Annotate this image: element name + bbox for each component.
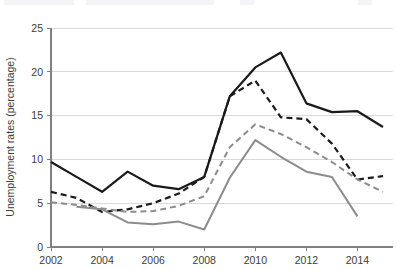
y-tick-label: 20	[31, 66, 43, 78]
y-tick-label: 25	[31, 22, 43, 34]
x-axis-tick-labels: 2002200420062008201020122014	[39, 254, 369, 266]
x-tick-label: 2002	[39, 254, 63, 266]
x-tick-label: 2010	[244, 254, 268, 266]
x-tick-label: 2008	[193, 254, 217, 266]
y-tick-label: 0	[37, 241, 43, 253]
x-tick-label: 2012	[295, 254, 319, 266]
gridlines-group	[51, 28, 393, 203]
y-tick-label: 5	[37, 197, 43, 209]
y-tick-label: 10	[31, 153, 43, 165]
chart-canvas: 0510152025 2002200420062008201020122014 …	[0, 0, 397, 269]
x-tick-label: 2014	[346, 254, 370, 266]
y-tick-label: 15	[31, 109, 43, 121]
tick-marks-group	[47, 28, 357, 251]
unemployment-rates-line-chart: 0510152025 2002200420062008201020122014 …	[0, 0, 397, 269]
series-gray-solid	[77, 140, 358, 229]
x-tick-label: 2006	[141, 254, 165, 266]
y-axis-title: Unemployment rates (percentage)	[4, 57, 16, 216]
x-tick-label: 2004	[90, 254, 114, 266]
y-axis-tick-labels: 0510152025	[31, 22, 43, 253]
